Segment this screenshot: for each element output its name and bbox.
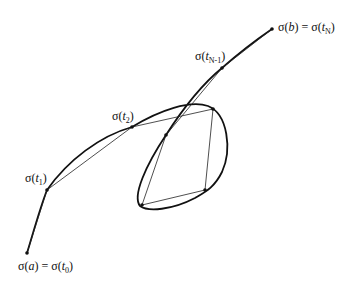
point-sigma-tN-1 — [220, 66, 224, 70]
point-loop-top-right — [211, 107, 215, 111]
label-text: ) — [221, 49, 225, 63]
label-text: σ( — [25, 171, 35, 185]
point-sigma-t1 — [45, 188, 49, 192]
point-sigma-t2 — [130, 125, 134, 129]
partition-points — [25, 27, 274, 255]
label-text: ) — [130, 109, 134, 123]
label-sigma-b: σ(b) = σ(tN) — [278, 21, 335, 36]
label-text: ) = σ( — [34, 259, 61, 273]
curve-sigma — [27, 29, 272, 253]
label-sigma-t2: σ(t2) — [112, 110, 134, 125]
label-subscript: N-1 — [209, 56, 221, 65]
point-loop-bottom-left — [140, 203, 144, 207]
label-text: ) — [331, 20, 335, 34]
label-text: σ( — [195, 49, 205, 63]
point-sigma-a — [25, 251, 29, 255]
label-text: σ( — [18, 259, 28, 273]
curve-diagram — [0, 0, 345, 284]
point-sigma-b — [270, 27, 274, 31]
label-text: ) — [43, 171, 47, 185]
point-loop-inner — [164, 133, 168, 137]
label-text: σ( — [278, 20, 288, 34]
point-loop-bottom-right — [203, 188, 207, 192]
label-sigma-a: σ(a) = σ(t0) — [18, 260, 73, 275]
label-sigma-t1: σ(t1) — [25, 172, 47, 187]
label-sigma-tN-1: σ(tN-1) — [195, 50, 225, 65]
polygonal-approximation — [27, 29, 272, 253]
label-text: ) = σ( — [294, 20, 321, 34]
label-text: ) — [69, 259, 73, 273]
label-text: σ( — [112, 109, 122, 123]
